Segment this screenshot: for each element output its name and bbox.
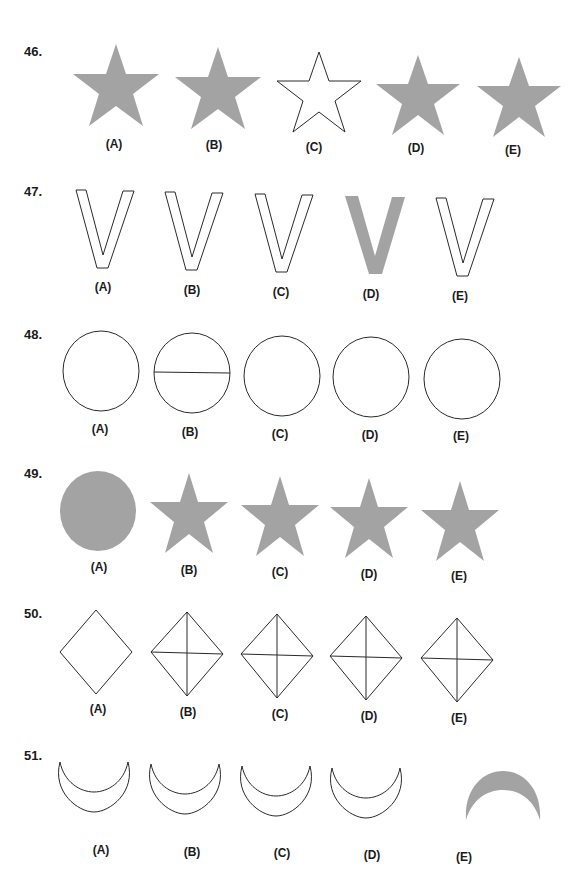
option-label-d: (D) [351,287,391,301]
option-label-b: (B) [170,425,210,439]
filled-crescent-icon [466,770,540,822]
option-label-d: (D) [349,567,389,581]
option-label-e: (E) [493,143,533,157]
option-label-a: (A) [94,137,134,151]
filled-star-icon [421,481,499,561]
filled-star-icon [477,57,561,137]
option-label-b: (B) [168,705,208,719]
option-label-e: (E) [439,569,479,583]
circle-icon [423,338,501,420]
option-label-c: (C) [260,565,300,579]
filled-star-icon [73,44,159,126]
diamond-crossed-icon [330,616,402,700]
question-number-47: 47. [24,184,42,199]
circle-icon [332,336,410,418]
option-label-d: (D) [350,428,390,442]
outline-v-icon [436,198,496,278]
outline-v-icon [255,194,315,274]
option-label-c: (C) [260,707,300,721]
filled-star-icon [376,55,460,135]
option-label-d: (D) [352,848,392,862]
option-label-a: (A) [81,843,121,857]
question-number-46: 46. [24,44,42,59]
diamond-crossed-icon [151,612,223,696]
option-label-b: (B) [172,283,212,297]
filled-v-icon [345,196,405,276]
question-number-51: 51. [24,748,42,763]
outline-crescent-icon [58,762,130,814]
option-label-e: (E) [439,711,479,725]
option-label-c: (C) [260,427,300,441]
outline-star-icon [277,52,361,132]
question-number-50: 50. [24,606,42,621]
option-label-e: (E) [444,850,484,864]
option-label-a: (A) [78,702,118,716]
filled-star-icon [150,473,228,553]
option-label-a: (A) [79,560,119,574]
question-number-48: 48. [24,327,42,342]
outline-v-icon [76,190,136,270]
option-label-b: (B) [194,138,234,152]
outline-crescent-icon [330,768,402,820]
filled-star-icon [175,47,261,129]
filled-star-icon [241,476,319,556]
filled-star-icon [330,478,408,558]
option-label-c: (C) [261,285,301,299]
diamond-crossed-icon [241,614,313,698]
circle-icon [243,335,321,417]
option-label-b: (B) [172,845,212,859]
option-label-c: (C) [262,846,302,860]
outline-crescent-icon [149,764,221,816]
circle-with-line-icon [153,332,231,414]
diamond-crossed-icon [421,618,493,702]
filled-circle-icon [59,470,137,552]
option-label-d: (D) [349,709,389,723]
diamond-icon [60,610,132,694]
option-label-b: (B) [169,563,209,577]
option-label-a: (A) [83,280,123,294]
option-label-a: (A) [80,422,120,436]
option-label-e: (E) [441,429,481,443]
option-label-d: (D) [396,141,436,155]
question-number-49: 49. [24,466,42,481]
outline-v-icon [165,192,225,272]
option-label-e: (E) [440,289,480,303]
option-label-c: (C) [294,140,334,154]
outline-crescent-icon [240,766,312,818]
circle-icon [62,330,140,412]
